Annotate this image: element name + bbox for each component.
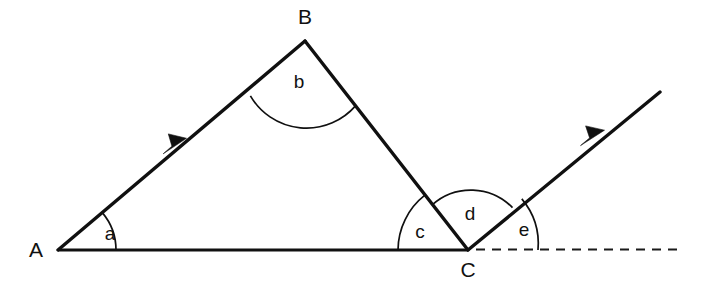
- geometry-canvas: A B C a b c d e: [0, 0, 710, 292]
- ray-from-c: [468, 92, 660, 250]
- side-ab: [58, 41, 305, 250]
- angle-label-b: b: [294, 71, 305, 92]
- side-bc: [305, 41, 468, 250]
- angle-arc-b: [250, 96, 355, 128]
- vertex-label-c: C: [460, 258, 475, 281]
- angle-label-e: e: [519, 219, 530, 240]
- angle-label-c: c: [415, 221, 425, 242]
- geometry-diagram: A B C a b c d e: [0, 0, 710, 292]
- vertex-label-a: A: [29, 238, 43, 261]
- angle-label-d: d: [465, 203, 476, 224]
- angle-label-a: a: [105, 223, 116, 244]
- vertex-label-b: B: [298, 5, 312, 28]
